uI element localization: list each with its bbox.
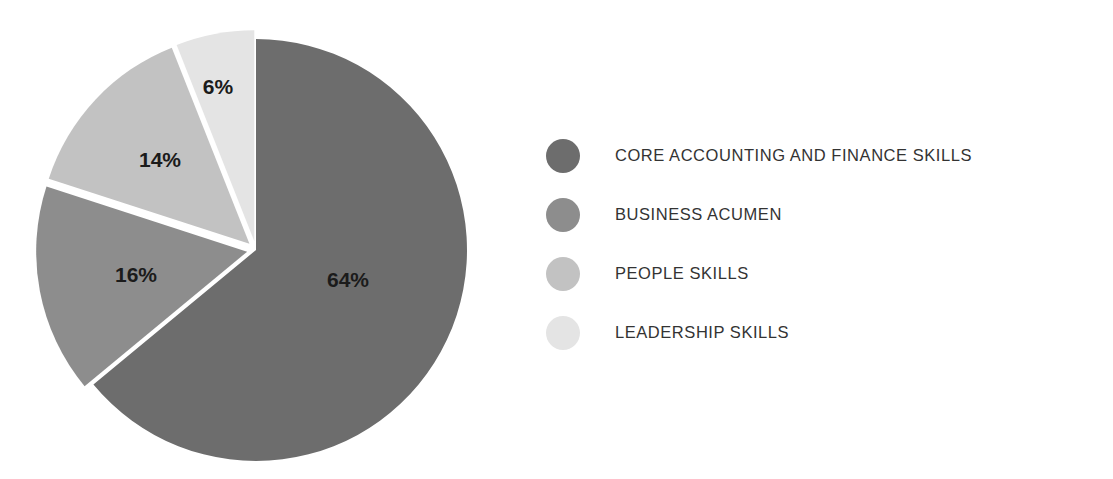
legend-label-core-accounting-and-finance-skills: CORE ACCOUNTING AND FINANCE SKILLS — [615, 146, 972, 165]
legend-item-people-skills[interactable]: PEOPLE SKILLS — [546, 244, 1086, 303]
legend-label-business-acumen: BUSINESS ACUMEN — [615, 205, 782, 224]
pie-chart-plot-area: 64% 16% 14% 6% — [0, 0, 520, 479]
pie-label-business-acumen: 16% — [115, 263, 157, 286]
pie-chart-figure: 64% 16% 14% 6% CORE ACCOUNTING AND FINAN… — [0, 0, 1113, 479]
legend-item-leadership-skills[interactable]: LEADERSHIP SKILLS — [546, 303, 1086, 362]
pie-chart-svg: 64% 16% 14% 6% — [0, 0, 520, 479]
legend-swatch-icon-business-acumen — [546, 198, 580, 232]
pie-label-people-skills: 14% — [139, 148, 181, 171]
legend-swatch-icon-leadership-skills — [546, 316, 580, 350]
chart-legend: CORE ACCOUNTING AND FINANCE SKILLS BUSIN… — [546, 126, 1086, 362]
legend-label-people-skills: PEOPLE SKILLS — [615, 264, 749, 283]
pie-label-leadership-skills: 6% — [203, 75, 234, 98]
legend-label-leadership-skills: LEADERSHIP SKILLS — [615, 323, 789, 342]
legend-item-core-accounting-and-finance-skills[interactable]: CORE ACCOUNTING AND FINANCE SKILLS — [546, 126, 1086, 185]
legend-swatch-icon-people-skills — [546, 257, 580, 291]
legend-swatch-icon-core-accounting-and-finance-skills — [546, 139, 580, 173]
pie-label-core-accounting-and-finance-skills: 64% — [327, 268, 369, 291]
legend-item-business-acumen[interactable]: BUSINESS ACUMEN — [546, 185, 1086, 244]
